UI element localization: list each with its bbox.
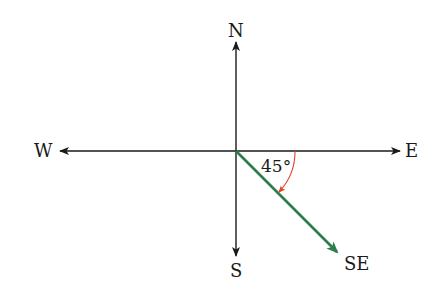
angle-label: 45° xyxy=(261,158,291,175)
north-label: N xyxy=(228,22,244,40)
south-label: S xyxy=(230,262,242,280)
southeast-label: SE xyxy=(344,255,369,273)
compass-diagram xyxy=(0,0,442,302)
west-label: W xyxy=(34,142,53,160)
east-label: E xyxy=(405,142,418,160)
